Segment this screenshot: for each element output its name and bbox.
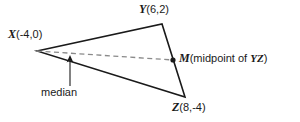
midpoint-label-m-prefix: (midpoint of <box>190 52 251 64</box>
vertex-label-x-point: X <box>8 27 16 41</box>
midpoint-label-m-suffix: ) <box>264 52 268 64</box>
median-annotation-label: median <box>41 86 77 98</box>
vertex-label-x: X(-4,0) <box>8 28 42 40</box>
vertex-label-z: Z(8,-4) <box>172 101 206 113</box>
vertex-label-x-coords: (-4,0) <box>16 28 42 40</box>
midpoint-label-m-point: M <box>179 51 190 65</box>
midpoint-label-m: M(midpoint of YZ) <box>179 52 267 64</box>
midpoint-m-dot <box>170 57 175 62</box>
midpoint-label-m-segment: YZ <box>250 52 263 64</box>
vertex-label-y-coords: (6,2) <box>146 3 169 15</box>
median-triangle-diagram: X(-4,0) Y(6,2) Z(8,-4) M(midpoint of YZ)… <box>0 0 300 122</box>
vertex-label-y: Y(6,2) <box>139 3 169 15</box>
median-dashed-line <box>37 51 173 60</box>
vertex-label-z-coords: (8,-4) <box>179 101 205 113</box>
